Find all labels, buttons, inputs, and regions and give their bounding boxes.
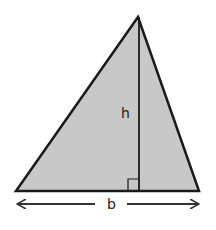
triangle-diagram: h b — [0, 0, 216, 230]
triangle-shape — [16, 17, 199, 191]
height-label: h — [121, 105, 130, 121]
base-label: b — [107, 196, 116, 212]
